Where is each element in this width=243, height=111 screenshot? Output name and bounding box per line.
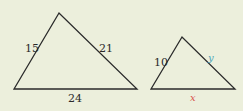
small-bottom-side-label: x [190, 93, 196, 103]
similar-triangles-diagram: 15 21 24 10 y x [0, 0, 243, 111]
large-bottom-side-label: 24 [68, 93, 82, 104]
small-right-side-label: y [208, 53, 214, 63]
large-left-side-label: 15 [25, 43, 39, 54]
small-left-side-label: 10 [154, 57, 168, 68]
triangles-svg [0, 0, 243, 111]
large-right-side-label: 21 [99, 43, 113, 54]
